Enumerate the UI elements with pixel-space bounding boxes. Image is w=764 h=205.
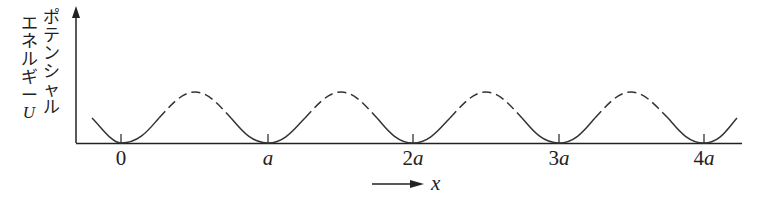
tick-label-4a: 4a — [694, 146, 715, 170]
potential-curve-solid — [92, 118, 737, 143]
tick-label-a: a — [263, 146, 274, 170]
tick-label-0: 0 — [116, 146, 127, 170]
potential-curve-dashed — [159, 92, 668, 118]
potential-diagram: 0 a 2a 3a 4a x — [0, 0, 764, 205]
tick-marks — [121, 134, 704, 143]
x-axis-label: x — [430, 171, 441, 195]
y-axis — [72, 6, 80, 143]
y-axis-arrow-icon — [72, 6, 80, 18]
tick-label-2a: 2a — [403, 146, 424, 170]
x-direction-arrow-icon — [372, 180, 424, 188]
tick-label-3a: 3a — [549, 146, 570, 170]
